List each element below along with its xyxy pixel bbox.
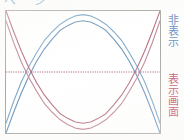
plot-frame: [5, 10, 161, 134]
label-display-region: 表示画面: [166, 73, 178, 117]
curve-red-arc-inner: [6, 11, 160, 123]
label-hidden-region: 非表示: [166, 14, 178, 47]
top-cutoff-caption-text: ページ: [4, 0, 49, 8]
diagram-screenshot: ページ 非表示 表示画面: [0, 0, 184, 140]
curve-plot: [6, 11, 160, 133]
